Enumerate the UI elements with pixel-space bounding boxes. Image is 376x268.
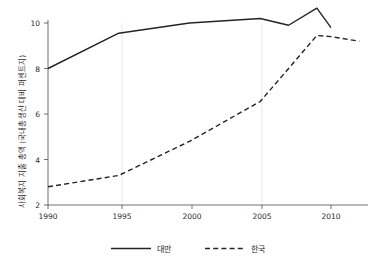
legend-label-taiwan: 대만	[157, 243, 171, 254]
series-line-korea	[48, 36, 359, 187]
legend-swatch-solid-icon	[111, 244, 151, 253]
legend-item-taiwan[interactable]: 대만	[111, 243, 171, 254]
x-tick-label-1995: 1995	[112, 212, 131, 221]
x-tick-label-1990: 1990	[38, 212, 57, 221]
x-axis: 1990 1995 2000 2005 2010	[38, 205, 368, 221]
line-chart-plot: 10 8 6 4 2 1990 1995 2000 2005 2010	[0, 0, 376, 268]
chart-legend: 대만 한국	[0, 243, 376, 254]
y-axis: 10 8 6 4 2	[30, 19, 48, 210]
legend-swatch-dashed-icon	[205, 244, 245, 253]
y-tick-label-4: 4	[35, 156, 40, 165]
x-tick-label-2005: 2005	[252, 212, 271, 221]
legend-item-korea[interactable]: 한국	[205, 243, 265, 254]
y-tick-label-10: 10	[30, 19, 40, 28]
chart-container: 10 8 6 4 2 1990 1995 2000 2005 2010 사회복지…	[0, 0, 376, 268]
y-tick-label-2: 2	[35, 201, 40, 210]
y-tick-label-8: 8	[35, 65, 40, 74]
legend-label-korea: 한국	[251, 243, 265, 254]
series-group	[48, 8, 359, 187]
x-tick-label-2000: 2000	[182, 212, 201, 221]
x-tick-label-2010: 2010	[321, 212, 340, 221]
series-line-taiwan	[48, 8, 331, 68]
y-axis-title: 사회복지 지출 총액 (국내총생산 대비 퍼센트지)	[16, 55, 27, 208]
y-tick-label-6: 6	[35, 110, 40, 119]
gridlines	[122, 23, 262, 205]
